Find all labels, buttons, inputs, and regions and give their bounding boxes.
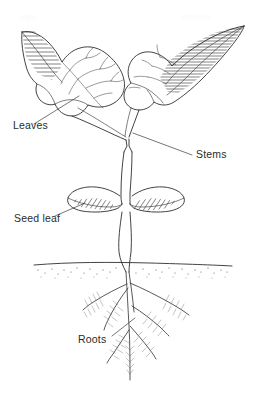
plant-illustration: eps vector xyxy=(0,0,258,399)
root-hairs-upper-right xyxy=(163,295,186,320)
left-leaf-shading xyxy=(14,28,62,80)
seedling-diagram: eps vector xyxy=(0,0,258,399)
left-leaf xyxy=(14,28,125,116)
soil-stipple xyxy=(37,267,227,278)
leader-line-stems xyxy=(133,133,192,155)
right-leaf xyxy=(124,26,250,110)
label-stems: Stems xyxy=(196,148,227,160)
label-seed-leaf: Seed leaf xyxy=(14,212,60,224)
root-hairs-lower-left xyxy=(110,335,129,359)
seed-leaves xyxy=(68,187,185,212)
label-roots: Roots xyxy=(78,333,106,345)
watermark-left: eps xyxy=(20,12,37,22)
soil-line xyxy=(34,262,232,278)
root-system xyxy=(83,272,189,380)
right-leaf-shading xyxy=(150,26,250,92)
leader-line-roots xyxy=(112,318,135,336)
watermark-right: vector xyxy=(182,12,212,22)
root-hairs-upper-left xyxy=(84,292,103,317)
label-leaves: Leaves xyxy=(13,119,48,131)
root-hairs-lower-right xyxy=(134,332,154,357)
